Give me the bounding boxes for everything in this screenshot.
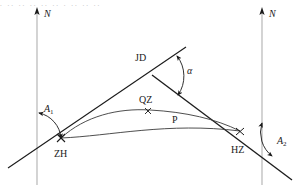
point-p-label: P [172,115,178,125]
diagram-canvas [0,0,300,185]
start-of-spiral-label: ZH [54,149,67,159]
intersection-point-label: JD [135,53,146,63]
lower-curve [61,128,240,138]
azimuth-start-label: A1 [44,104,54,114]
angle-arc-alpha [177,56,184,95]
north-axis-left [34,7,39,185]
end-of-spiral-label: HZ [231,145,244,155]
azimuth-end-subscript: 2 [283,140,287,148]
north-label-left: N [44,9,51,19]
azimuth-end-label: A2 [277,136,287,146]
point-marker-hz [236,128,244,135]
curve-midpoint-label: QZ [139,95,152,105]
route-curve-diagram: . .. .. .. .. .. . .. .. .. [0,0,300,185]
forward-tangent-line [152,75,292,180]
back-tangent-line [8,47,186,168]
deflection-angle-label: α [187,66,192,76]
azimuth-start-subscript: 1 [50,108,54,116]
point-marker-qz [145,108,151,114]
north-label-right: N [269,9,276,19]
